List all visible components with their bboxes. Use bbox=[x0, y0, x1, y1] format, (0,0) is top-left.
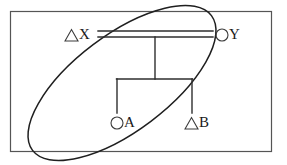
node-a-label: A bbox=[124, 114, 135, 130]
triangle-icon bbox=[185, 118, 198, 130]
circle-icon bbox=[111, 117, 123, 129]
circle-icon bbox=[216, 29, 228, 41]
grouping-ellipse-group bbox=[4, 0, 241, 165]
pedigree-canvas: X Y A B bbox=[0, 0, 287, 165]
node-x: X bbox=[65, 26, 90, 42]
pedigree-figure: X Y A B bbox=[0, 0, 287, 165]
triangle-icon bbox=[65, 30, 78, 42]
node-a: A bbox=[111, 114, 135, 130]
node-b: B bbox=[185, 114, 209, 130]
marriage-line bbox=[98, 31, 213, 37]
node-y: Y bbox=[216, 26, 240, 42]
node-x-label: X bbox=[79, 26, 90, 42]
node-y-label: Y bbox=[229, 26, 240, 42]
node-b-label: B bbox=[199, 114, 209, 130]
grouping-ellipse bbox=[4, 0, 241, 165]
